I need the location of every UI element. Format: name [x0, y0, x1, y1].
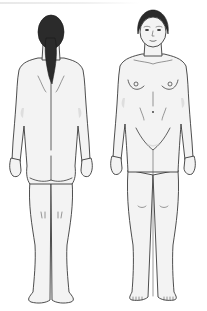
right-hand	[81, 158, 92, 177]
right-leg	[51, 180, 73, 303]
left-hand	[10, 158, 21, 177]
left-leg	[127, 170, 153, 300]
figure-back-view	[0, 0, 104, 311]
eye-right	[157, 29, 161, 31]
figure-front-view	[100, 0, 207, 311]
back-view-drawing	[0, 0, 104, 311]
navel	[152, 111, 154, 113]
right-leg	[153, 170, 179, 300]
front-view-drawing	[100, 0, 207, 311]
left-hand	[111, 156, 122, 175]
eye-left	[145, 29, 149, 31]
right-hand	[184, 156, 195, 175]
left-leg	[29, 180, 51, 303]
